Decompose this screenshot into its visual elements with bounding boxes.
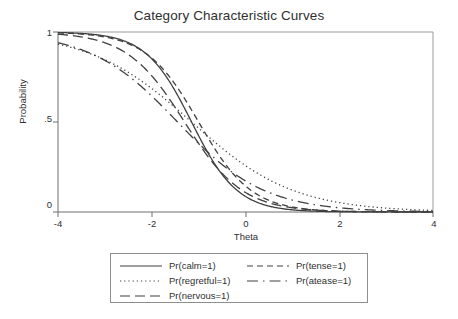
legend-label-calm: Pr(calm=1): [169, 260, 216, 272]
curve-group: [58, 33, 433, 212]
legend-swatch-dash: [246, 260, 290, 272]
legend-swatch-dotted: [119, 275, 163, 287]
legend-item-calm[interactable]: Pr(calm=1): [119, 258, 216, 273]
legend-label-regretful: Pr(regretful=1): [169, 275, 231, 287]
curve-prnervous: [58, 34, 433, 212]
legend-item-nervous[interactable]: Pr(nervous=1): [119, 288, 229, 303]
curve-prcalm: [58, 33, 433, 212]
legend-label-nervous: Pr(nervous=1): [169, 290, 229, 302]
legend-swatch-longdash: [119, 290, 163, 302]
legend-label-atease: Pr(atease=1): [296, 275, 351, 287]
legend: Pr(calm=1) Pr(tense=1) Pr(regretful=1) P…: [110, 253, 368, 303]
axis-frame: [58, 32, 433, 212]
chart-figure: Category Characteristic Curves Probabili…: [0, 0, 458, 319]
legend-grid: Pr(calm=1) Pr(tense=1) Pr(regretful=1) P…: [111, 254, 367, 302]
legend-swatch-dashdot: [246, 275, 290, 287]
legend-swatch-solid: [119, 260, 163, 272]
curve-pratease: [58, 43, 433, 212]
legend-item-atease[interactable]: Pr(atease=1): [246, 273, 351, 288]
legend-label-tense: Pr(tense=1): [296, 260, 346, 272]
legend-item-tense[interactable]: Pr(tense=1): [246, 258, 346, 273]
curve-prtense: [58, 33, 433, 212]
axis-ticks: [53, 32, 433, 217]
legend-item-regretful[interactable]: Pr(regretful=1): [119, 273, 231, 288]
curve-prregretful: [58, 44, 433, 210]
